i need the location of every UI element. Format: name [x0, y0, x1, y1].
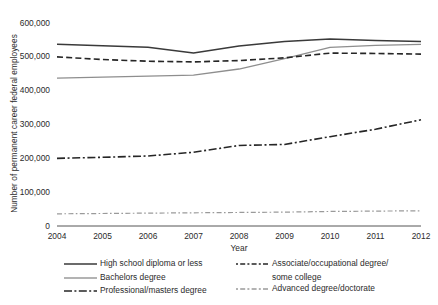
x-axis-tick-label: 2006 — [128, 231, 168, 241]
x-axis-tick-label: 2010 — [310, 231, 350, 241]
legend-right-label: Advanced degree/doctorate — [269, 283, 375, 295]
legend-right-item[interactable]: Associate/occupational degree/ — [236, 258, 436, 272]
legend-left-item[interactable]: Bachelors degree — [64, 272, 229, 286]
y-axis-tick-label: 100,000 — [2, 188, 50, 197]
plot-area — [52, 14, 426, 230]
x-axis-tick-label: 2012 — [401, 231, 438, 241]
y-axis-tick-label: 500,000 — [2, 52, 50, 61]
x-axis-tick-label: 2004 — [37, 231, 77, 241]
x-axis-tick-label: 2009 — [265, 231, 305, 241]
x-axis-tick-label: 2011 — [356, 231, 396, 241]
x-axis-tick-label: 2005 — [83, 231, 123, 241]
x-axis-tick-label: 2008 — [219, 231, 259, 241]
legend-right-label-continued: some college — [236, 272, 436, 284]
series-line-2 — [57, 53, 421, 62]
solid-dark-line-swatch — [64, 258, 97, 270]
solid-gray-line-swatch — [64, 272, 97, 284]
legend-column-right: Associate/occupational degree/some colle… — [236, 258, 436, 297]
dashed-dark-line-swatch — [236, 258, 269, 270]
y-axis-tick-label: 300,000 — [2, 120, 50, 129]
x-axis-title: Year — [52, 243, 426, 253]
dashdot-dark-line-swatch — [64, 285, 97, 297]
legend-left-item[interactable]: Professional/masters degree — [64, 285, 229, 299]
series-line-1 — [57, 44, 421, 78]
y-axis-tick-label: 0 — [2, 222, 50, 231]
chart-figure: Number of permanent career federal emplo… — [0, 0, 438, 305]
legend-right-label: Associate/occupational degree/ — [269, 258, 388, 270]
series-line-3 — [57, 120, 421, 159]
legend-left-item[interactable]: High school diploma or less — [64, 258, 229, 272]
y-axis-tick-label: 400,000 — [2, 86, 50, 95]
x-axis-tick-label: 2007 — [174, 231, 214, 241]
chart-lines-svg — [52, 14, 426, 230]
legend-left-label: Professional/masters degree — [97, 285, 207, 297]
legend-left-label: Bachelors degree — [97, 272, 166, 284]
y-axis-tick-labels: 600,000500,000400,000300,000200,000100,0… — [0, 14, 50, 230]
chart-legend: High school diploma or lessBachelors deg… — [0, 258, 438, 305]
y-axis-tick-label: 200,000 — [2, 154, 50, 163]
legend-column-left: High school diploma or lessBachelors deg… — [64, 258, 229, 299]
y-axis-tick-label: 600,000 — [2, 19, 50, 28]
legend-right-item[interactable]: Advanced degree/doctorate — [236, 283, 436, 297]
series-line-4 — [57, 211, 421, 214]
legend-left-label: High school diploma or less — [97, 258, 202, 270]
dashdot-light-line-swatch — [236, 283, 269, 295]
x-axis-tick-labels: 200420052006200720082009201020112012 — [52, 231, 426, 243]
